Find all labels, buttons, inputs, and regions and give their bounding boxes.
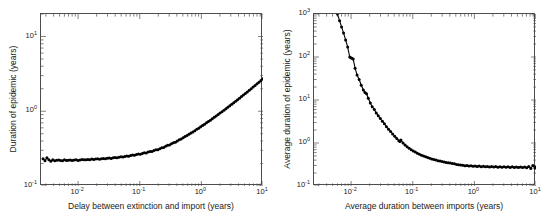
x-tick-label: 101 xyxy=(529,188,540,196)
duration-of-epidemic-panel: Delay between extinction and import (yea… xyxy=(0,0,274,224)
x-tick-label: 10-1 xyxy=(405,188,418,196)
y-tick-label: 100 xyxy=(15,106,37,114)
x-tick-label: 101 xyxy=(256,188,267,196)
x-tick-label: 100 xyxy=(468,188,479,196)
average-duration-of-epidemic-panel: Average duration between imports (years)… xyxy=(274,0,548,224)
plot-area-right xyxy=(313,13,535,185)
y-tick-label: 10-1 xyxy=(15,181,37,189)
x-tick-label: 10-2 xyxy=(70,188,83,196)
y-tick-label: 102 xyxy=(288,52,310,60)
plot-svg-right xyxy=(314,14,536,186)
y-tick-label: 103 xyxy=(288,9,310,17)
y-tick-label: 100 xyxy=(288,138,310,146)
y-tick-label: 101 xyxy=(288,95,310,103)
x-axis-label-right: Average duration between imports (years) xyxy=(313,201,535,211)
x-tick-label: 10-1 xyxy=(132,188,145,196)
figure-container: Delay between extinction and import (yea… xyxy=(0,0,548,224)
x-tick-label: 10-2 xyxy=(343,188,356,196)
plot-svg-left xyxy=(41,14,263,186)
x-tick-label: 100 xyxy=(195,188,206,196)
y-tick-label: 10-1 xyxy=(288,181,310,189)
x-axis-label-left: Delay between extinction and import (yea… xyxy=(40,201,262,211)
plot-area-left xyxy=(40,13,262,185)
y-tick-label: 101 xyxy=(15,32,37,40)
